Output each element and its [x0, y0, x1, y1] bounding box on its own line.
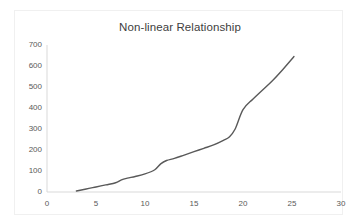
x-tick-label: 10: [133, 199, 157, 208]
x-tick-label: 20: [231, 199, 255, 208]
y-tick-label: 700: [18, 40, 42, 49]
axis-lines: [47, 45, 341, 192]
y-tick-label: 500: [18, 82, 42, 91]
x-tick-label: 15: [182, 199, 206, 208]
y-tick-label: 100: [18, 166, 42, 175]
chart-container: Non-linear Relationship 0100200300400500…: [0, 0, 360, 224]
x-tick-label: 25: [280, 199, 304, 208]
x-tick-label: 30: [329, 199, 353, 208]
x-tick-label: 0: [35, 199, 59, 208]
y-tick-label: 200: [18, 145, 42, 154]
plot-area: [0, 0, 360, 224]
x-tick-label: 5: [84, 199, 108, 208]
y-tick-label: 300: [18, 124, 42, 133]
y-tick-label: 400: [18, 103, 42, 112]
y-tick-label: 0: [18, 187, 42, 196]
data-series-line: [76, 57, 294, 191]
y-tick-label: 600: [18, 61, 42, 70]
